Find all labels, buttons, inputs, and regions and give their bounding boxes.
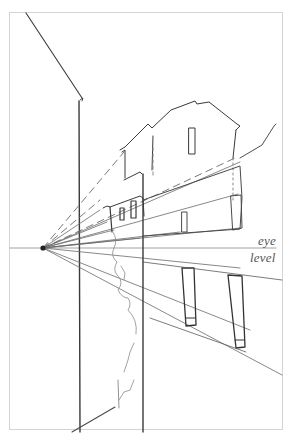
level-label: level: [250, 250, 276, 266]
sketch-page: eye level: [0, 0, 288, 433]
upper-wall: [143, 166, 242, 236]
eye-label: eye: [258, 233, 276, 249]
left-building: [26, 13, 83, 432]
street-edge: [113, 232, 137, 408]
lower-windows: [182, 268, 245, 348]
road-edge: [72, 407, 115, 432]
perspective-sketch: [0, 0, 288, 433]
dashed-guidelines: [43, 152, 235, 248]
vanishing-point: [40, 245, 45, 250]
